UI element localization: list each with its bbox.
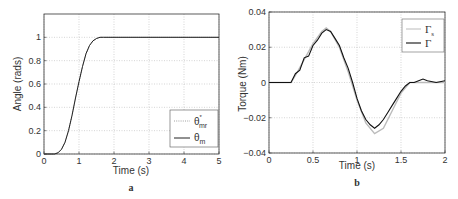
legend-box-b [402, 19, 444, 52]
y-axis-label-b: Torque (Nm) [237, 56, 248, 112]
y-tick-label: −0.02 [243, 113, 266, 123]
panel-label-a: a [129, 182, 134, 193]
x-tick-label: 4 [181, 156, 186, 166]
x-tick-label: 1.5 [395, 155, 408, 165]
y-tick-label: 0.04 [248, 7, 266, 17]
legend-a: θ*mr θm [170, 110, 218, 147]
figure: 01234500.20.40.60.81 Time (s) Angle (rad… [0, 0, 458, 199]
x-tick-label: 5 [216, 156, 221, 166]
panel-label-b: b [354, 177, 360, 188]
x-tick-label: 0 [266, 155, 271, 165]
y-tick-label: 0.2 [28, 126, 41, 136]
y-tick-label: 0 [36, 149, 41, 159]
x-axis-label-b: Time (s) [339, 160, 375, 171]
x-tick-label: 0.5 [307, 155, 320, 165]
x-tick-label: 2 [442, 155, 447, 165]
chart-panel-a: 01234500.20.40.60.81 Time (s) Angle (rad… [12, 14, 222, 193]
y-tick-label: 0.8 [28, 56, 41, 66]
legend-entry-gamma: Γ [425, 37, 431, 49]
legend-b: Γs Γ [402, 19, 444, 52]
y-tick-label: 0 [261, 78, 266, 88]
x-axis-label-a: Time (s) [113, 165, 149, 176]
x-tick-label: 0 [41, 156, 46, 166]
x-tick-label: 1 [76, 156, 81, 166]
y-axis-label-a: Angle (rads) [12, 57, 23, 111]
y-tick-label: 0.4 [28, 102, 41, 112]
y-tick-label: 0.6 [28, 79, 41, 89]
y-tick-label: 1 [36, 32, 41, 42]
y-tick-label: −0.04 [243, 148, 266, 158]
chart-panel-b: 00.511.52−0.04−0.0200.020.04 Time (s) To… [237, 7, 448, 188]
y-tick-label: 0.02 [248, 42, 266, 52]
